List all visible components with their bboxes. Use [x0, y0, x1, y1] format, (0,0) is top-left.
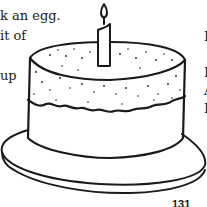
page-number: 131 [172, 198, 190, 207]
flame-icon [101, 4, 107, 18]
book-page: k an egg. it of up I I A I [0, 0, 207, 207]
birthday-cake-illustration [0, 0, 207, 207]
candle-icon [98, 4, 110, 66]
plate-icon [2, 130, 206, 193]
